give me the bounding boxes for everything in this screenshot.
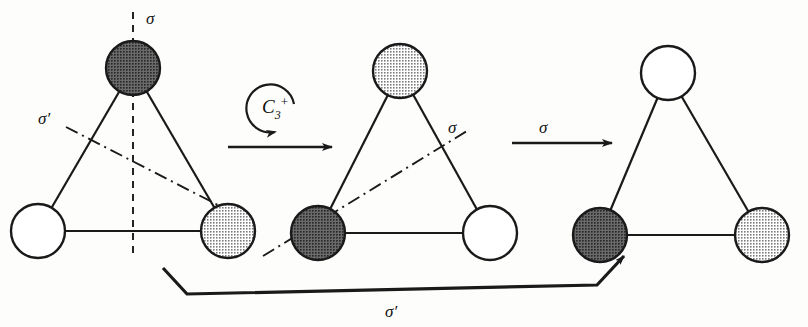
- panel-1-vertex-top: [106, 41, 160, 95]
- panel-2-sigma-label: σ: [448, 118, 457, 137]
- operation-sigma-reflection: σ: [512, 118, 612, 143]
- c3-label-subscript: 3: [274, 108, 281, 122]
- panel-3-vertex-bottom-right: [735, 208, 789, 262]
- panel-2-vertex-bottom-right: [463, 206, 517, 260]
- sigma-prime-bent-arrow: [163, 256, 624, 294]
- sigma-prime-operation-label: σ′: [385, 302, 397, 321]
- panel-2-vertex-bottom-left: [291, 206, 345, 260]
- panel-1-sigma-label: σ: [146, 9, 155, 28]
- c3-label-base: C: [262, 96, 275, 117]
- operation-sigma-prime-reflection: σ′: [163, 256, 624, 321]
- c3-label-superscript: +: [281, 94, 288, 109]
- panel-3-vertex-top: [641, 46, 695, 100]
- sigma-operation-label: σ: [539, 118, 548, 137]
- panel-3-vertex-bottom-left: [573, 208, 627, 262]
- panel-2-after-c3-rotation: σ: [263, 44, 517, 260]
- panel-1-vertex-bottom-left: [11, 204, 65, 258]
- diagram-canvas: σ σ′ C3+ σ: [0, 0, 808, 327]
- panel-1-vertex-bottom-right: [201, 204, 255, 258]
- panel-1-initial-configuration: σ σ′: [11, 9, 255, 259]
- c3-operation-label: C3+: [262, 94, 288, 122]
- panel-1-sigma-prime-label: σ′: [38, 109, 50, 128]
- panel-2-vertex-top: [373, 44, 427, 98]
- panel-3-after-sigma-reflection: [573, 46, 789, 262]
- operation-c3-rotation: C3+: [228, 84, 332, 147]
- symmetry-diagram-figure: σ σ′ C3+ σ: [0, 0, 808, 327]
